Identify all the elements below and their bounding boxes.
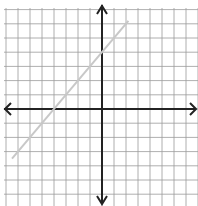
axes bbox=[4, 5, 196, 204]
plotted-line bbox=[12, 21, 128, 159]
coordinate-plane bbox=[0, 0, 198, 206]
linear-function-line bbox=[12, 21, 128, 159]
